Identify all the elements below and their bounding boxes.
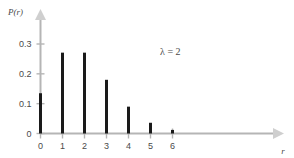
chart-annotations: λ = 2: [160, 46, 181, 57]
bar: [39, 93, 42, 133]
y-tick-label: 0.2: [19, 69, 32, 79]
lambda-annotation: λ = 2: [160, 46, 181, 57]
y-tick-label: 0.3: [19, 39, 32, 49]
x-tick-label: 2: [82, 141, 87, 151]
y-axis-title: P(r): [7, 7, 23, 17]
x-tick-label: 5: [148, 141, 153, 151]
x-tick-label: 4: [126, 141, 131, 151]
x-axis-title: r: [281, 146, 285, 156]
x-tick-label: 3: [104, 141, 109, 151]
chart-canvas: P(r) r 00.10.20.3 0123456 λ = 2: [0, 0, 294, 158]
y-tick-label: 0.1: [19, 99, 32, 109]
x-tick-label: 0: [38, 141, 43, 151]
x-tick-label: 1: [60, 141, 65, 151]
bar: [83, 53, 86, 134]
poisson-distribution-chart: P(r) r 00.10.20.3 0123456 λ = 2: [0, 0, 294, 158]
bar: [171, 130, 174, 134]
y-tick-label: 0: [26, 129, 31, 139]
x-tick-label: 6: [170, 141, 175, 151]
bar: [61, 53, 64, 134]
bar: [127, 107, 130, 134]
bar: [149, 123, 152, 134]
bar: [105, 80, 108, 134]
